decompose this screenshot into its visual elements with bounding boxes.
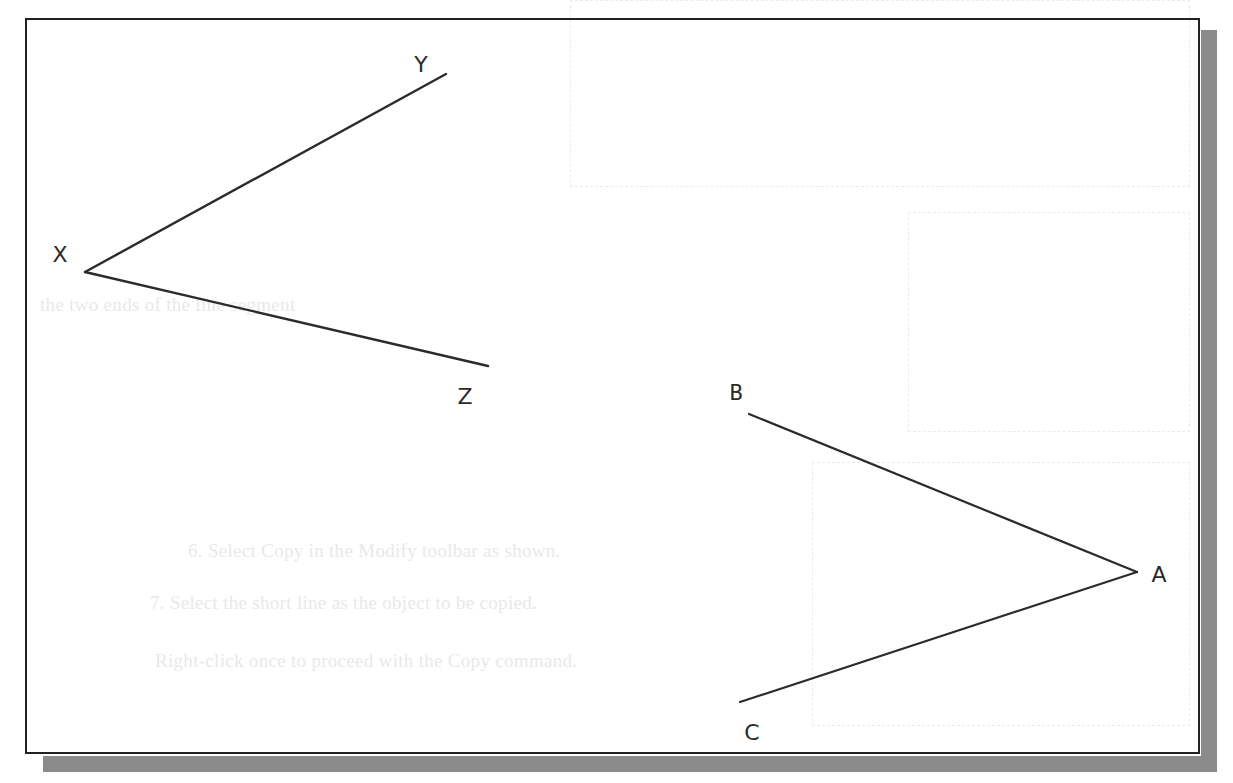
point-label-z: Z: [457, 384, 472, 409]
point-label-a: A: [1151, 562, 1166, 587]
angle-bac: A B C: [729, 380, 1166, 745]
line-segment-xz: [85, 272, 488, 366]
point-label-b: B: [729, 380, 742, 405]
point-label-c: C: [744, 720, 759, 745]
line-segment-xy: [85, 74, 446, 272]
geometry-drawing: X Y Z A B C: [0, 0, 1233, 783]
line-segment-ab: [749, 414, 1137, 572]
line-segment-ac: [740, 572, 1137, 702]
point-label-y: Y: [413, 52, 428, 77]
point-label-x: X: [52, 242, 67, 267]
angle-xyz: X Y Z: [52, 52, 488, 409]
